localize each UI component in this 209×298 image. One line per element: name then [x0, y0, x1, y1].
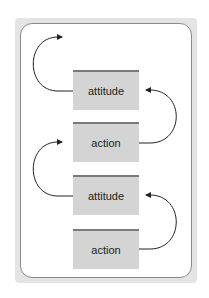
- arrow-left-middle: [33, 142, 73, 196]
- arrow-right-upper: [139, 90, 176, 143]
- arrow-left-top: [33, 37, 73, 91]
- arrow-right-lower: [139, 195, 176, 249]
- cycle-arrows: [0, 0, 209, 298]
